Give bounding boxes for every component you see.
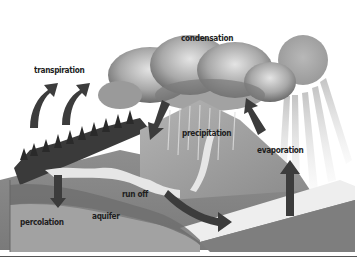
label-aquifer: aquifer: [92, 211, 120, 221]
label-run-off: run off: [122, 189, 148, 199]
label-percolation: percolation: [20, 217, 64, 227]
label-evaporation: evaporation: [257, 145, 304, 155]
transpiration-arrow-right: [62, 83, 90, 125]
water-cycle-diagram: condensation transpiration precipitation…: [0, 0, 357, 260]
label-precipitation: precipitation: [182, 128, 231, 138]
transpiration-arrow-left: [30, 83, 58, 128]
bottom-divider: [0, 256, 357, 257]
label-transpiration: transpiration: [34, 65, 84, 75]
clouds: [98, 35, 296, 111]
label-condensation: condensation: [181, 33, 233, 43]
